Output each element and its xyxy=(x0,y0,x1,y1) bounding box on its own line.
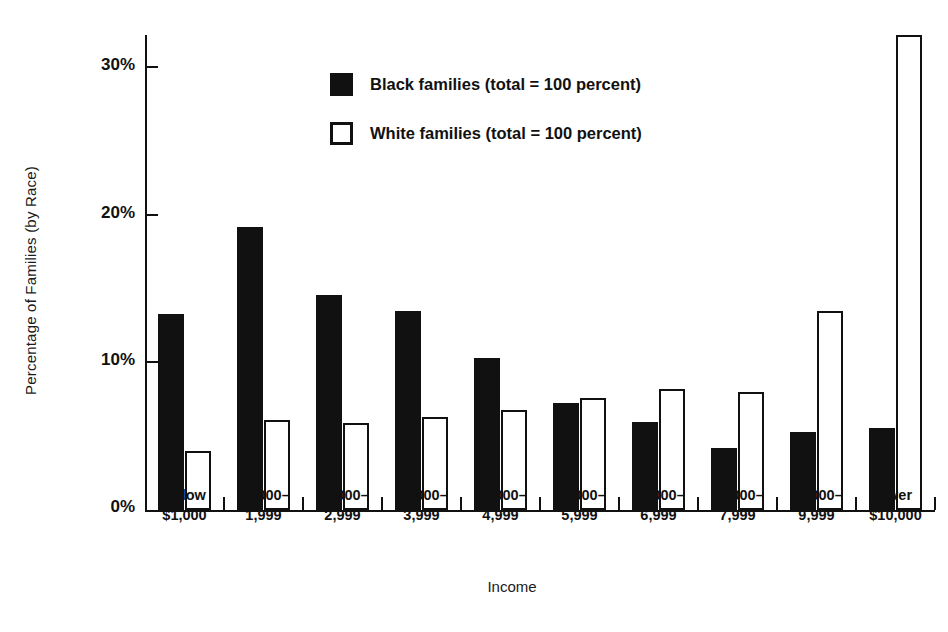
legend-item-black: Black families (total = 100 percent) xyxy=(330,68,642,101)
x-category-label: $8,000–9,999 xyxy=(777,485,856,525)
bar-black-1 xyxy=(158,314,184,510)
x-category-label-line1: Over xyxy=(856,485,935,505)
x-category-label-line1: $8,000– xyxy=(777,485,856,505)
y-tick-mark xyxy=(147,66,158,68)
x-category-label: $2,000–2,999 xyxy=(303,485,382,525)
y-tick-mark xyxy=(147,361,158,363)
y-tick-label: 10% xyxy=(101,350,135,370)
bar-white-10 xyxy=(896,35,922,510)
legend-label-black: Black families (total = 100 percent) xyxy=(370,75,641,94)
x-category-label-line1: Below xyxy=(145,485,224,505)
x-category-label-line2: 4,999 xyxy=(461,505,540,525)
x-category-label-line2: 9,999 xyxy=(777,505,856,525)
bar-black-3 xyxy=(316,295,342,510)
x-category-label-line1: $7,000– xyxy=(698,485,777,505)
bar-chart: Percentage of Families (by Race) 0%10%20… xyxy=(0,0,948,632)
x-category-label: Below$1,000 xyxy=(145,485,224,525)
x-category-label-line1: $2,000– xyxy=(303,485,382,505)
y-axis-line xyxy=(145,35,147,512)
y-tick-label: 30% xyxy=(101,55,135,75)
bar-white-9 xyxy=(817,311,843,510)
x-category-label-line1: $3,000– xyxy=(382,485,461,505)
x-category-label: $1,000–1,999 xyxy=(224,485,303,525)
x-category-label-line1: $4,000– xyxy=(461,485,540,505)
x-axis-title-text: Income xyxy=(487,578,536,595)
x-category-label-line2: 5,999 xyxy=(540,505,619,525)
x-category-label: $5,000–5,999 xyxy=(540,485,619,525)
y-tick-mark xyxy=(147,214,158,216)
x-category-label: $7,000–7,999 xyxy=(698,485,777,525)
x-category-label-line2: 1,999 xyxy=(224,505,303,525)
x-category-label-line1: $1,000– xyxy=(224,485,303,505)
x-axis-title: Income xyxy=(0,578,948,595)
x-category-label: Over$10,000 xyxy=(856,485,935,525)
legend-swatch-black-icon xyxy=(330,73,353,96)
y-tick-label: 20% xyxy=(101,203,135,223)
bar-black-2 xyxy=(237,227,263,510)
x-category-label: $6,000–6,999 xyxy=(619,485,698,525)
y-tick-label: 0% xyxy=(110,497,135,517)
x-category-label-line2: 2,999 xyxy=(303,505,382,525)
x-category-label-line2: 7,999 xyxy=(698,505,777,525)
x-category-label: $4,000–4,999 xyxy=(461,485,540,525)
x-category-label-line2: 6,999 xyxy=(619,505,698,525)
x-category-label-line2: $10,000 xyxy=(856,505,935,525)
legend-label-white: White families (total = 100 percent) xyxy=(370,124,642,143)
x-category-label-line2: 3,999 xyxy=(382,505,461,525)
bar-black-4 xyxy=(395,311,421,510)
x-category-label-line2: $1,000 xyxy=(145,505,224,525)
x-category-label: $3,000–3,999 xyxy=(382,485,461,525)
legend-item-white: White families (total = 100 percent) xyxy=(330,117,642,150)
x-category-label-line1: $5,000– xyxy=(540,485,619,505)
x-category-label-line1: $6,000– xyxy=(619,485,698,505)
chart-legend: Black families (total = 100 percent) Whi… xyxy=(330,68,642,166)
y-axis-title: Percentage of Families (by Race) xyxy=(22,131,39,431)
legend-swatch-white-icon xyxy=(330,122,353,145)
